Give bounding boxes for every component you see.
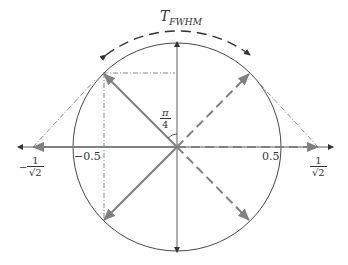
neg-sign: − — [19, 163, 27, 173]
fwhm-subscript: FWHM — [169, 17, 202, 27]
neg-num: 1 — [27, 156, 44, 167]
pos-num: 1 — [310, 156, 327, 167]
fwhm-label: TFWHM — [160, 8, 202, 27]
tangent-right — [258, 82, 318, 147]
dashed-arrow-upper-right — [177, 74, 249, 147]
fwhm-main: T — [160, 8, 169, 24]
pos-den: √2 — [310, 167, 327, 178]
angle-arc — [168, 134, 177, 138]
tangent-left — [33, 80, 95, 147]
gray-arrow-lower-left — [104, 147, 177, 220]
neg-den: √2 — [27, 167, 44, 178]
diagram: TFWHM π 4 −0.5 0.5 − 1 √2 1 √2 — [0, 0, 348, 265]
tick-pos-inv-sqrt2: 1 √2 — [310, 156, 327, 178]
angle-label: π 4 — [160, 108, 171, 130]
angle-num: π — [160, 108, 171, 119]
angle-den: 4 — [160, 119, 171, 130]
tick-neg-half: −0.5 — [74, 151, 101, 162]
dashed-arrow-lower-right — [177, 147, 249, 220]
diagram-svg — [0, 0, 348, 265]
tick-pos-half: 0.5 — [262, 151, 280, 162]
tick-neg-inv-sqrt2: − 1 √2 — [27, 156, 44, 178]
